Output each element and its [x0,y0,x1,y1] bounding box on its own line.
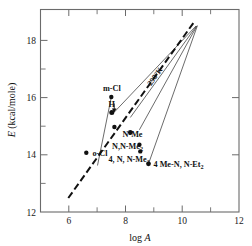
x-ticklabel-12: 12 [234,216,244,226]
pointlabel-h: H [109,100,116,109]
pointlabel-4me-nn-et2-main: 4 Me-N, N-Et [154,160,201,169]
datapoint-o-cl [84,151,88,155]
datapoint-m-cl [109,95,113,99]
y-ticklabel-16: 16 [27,93,37,103]
pointlabel-4me-nn-et2-sub: 2 [201,163,204,170]
x-axis-title-A: A [144,232,152,243]
datapoint-n-me [112,125,116,129]
y-axis-title-E: E [6,131,17,138]
pointlabel-nn-me2: N,N-Me2 [112,142,143,152]
pointlabel-4nn-me3-sub: 3 [147,158,150,165]
y-ticklabel-18: 18 [27,36,37,46]
pointlabel-4nn-me3: 4, N, N-Me3 [109,155,150,165]
pointlabel-nn-me2-main: N,N-Me [112,142,140,151]
x-ticklabel-8: 8 [123,216,128,226]
pointlabel-nn-me2-sub: 2 [140,145,143,152]
x-ticklabel-10: 10 [177,216,187,226]
scatter-plot-svg: 6 8 10 12 18 16 14 12 log A E (kcal/mole… [0,0,252,246]
datapoint-h [109,110,114,115]
pointlabel-m-cl: m-Cl [103,84,121,93]
chart-figure: 6 8 10 12 18 16 14 12 log A E (kcal/mole… [0,0,252,246]
pointlabel-n-me: N-Me [123,130,143,139]
y-axis-title-units: (kcal/mole) [6,83,18,132]
pointlabel-o-cl: o-Cl [93,149,109,158]
x-ticklabel-6: 6 [66,216,71,226]
y-ticklabel-12: 12 [27,208,37,218]
x-axis-title: log A [129,232,151,243]
pointlabel-4me-nn-et2: 4 Me-N, N-Et2 [154,160,204,170]
y-ticklabel-14: 14 [27,150,37,160]
y-axis-title: E (kcal/mole) [6,83,18,139]
pointlabel-4nn-me3-main: 4, N, N-Me [109,155,148,164]
x-axis-title-log: log [129,232,142,243]
